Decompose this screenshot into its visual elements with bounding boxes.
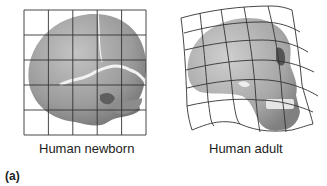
newborn-skull: [28, 14, 146, 126]
adult-skull: [188, 18, 300, 131]
newborn-caption: Human newborn: [39, 141, 134, 156]
transformation-grid-figure: [0, 0, 327, 186]
panel-label: (a): [5, 169, 20, 183]
adult-caption: Human adult: [209, 141, 283, 156]
